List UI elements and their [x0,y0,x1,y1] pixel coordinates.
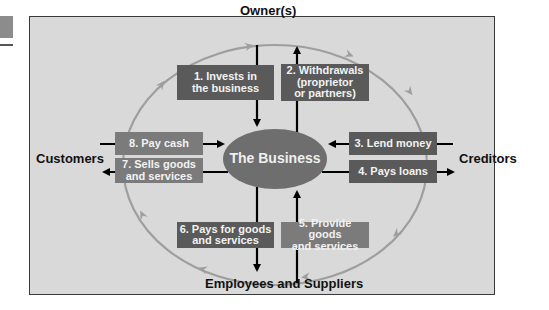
flow-7-line-1: 7. Sells goods [122,159,196,171]
flow-box-2: 2. Withdrawals (proprietor or partners) [281,64,369,101]
node-employees-suppliers: Employees and Suppliers [205,276,363,291]
flow-box-3: 3. Lend money [349,132,437,155]
flow-2-line-3: or partners) [294,88,356,100]
flow-8-line-1: 8. Pay cash [129,138,189,150]
flow-box-1: 1. Invests in the business [177,65,274,100]
flow-1-line-2: the business [192,83,259,95]
flow-box-5: 5. Provide goods and services [281,222,369,248]
flow-box-4: 4. Pays loans [349,160,437,183]
flow-5-line-2: and services [292,241,359,253]
flow-6-line-2: and services [192,235,259,247]
flow-1-line-1: 1. Invests in [194,71,257,83]
flow-3-line-1: 3. Lend money [354,138,431,150]
flow-4-line-1: 4. Pays loans [358,166,428,178]
node-creditors: Creditors [459,151,517,166]
business-label: The Business [223,150,327,166]
flow-7-line-2: and services [126,171,193,183]
node-owners: Owner(s) [240,3,296,18]
flow-box-8: 8. Pay cash [115,132,203,155]
flow-5-line-1: 5. Provide goods [281,218,369,241]
node-customers: Customers [36,151,104,166]
flow-box-7: 7. Sells goods and services [115,158,203,183]
flow-box-6: 6. Pays for goods and services [177,222,274,248]
